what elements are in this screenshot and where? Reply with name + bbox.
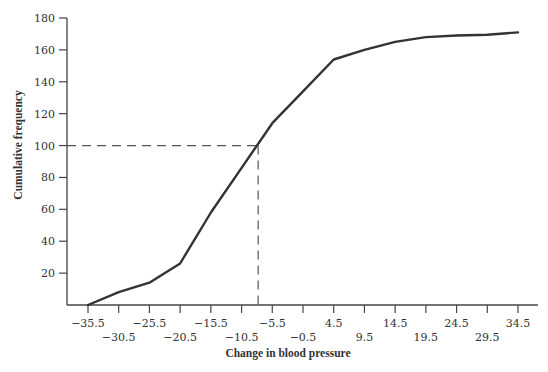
x-tick-label: −10.5 (225, 331, 259, 344)
reference-dashed-lines (67, 146, 258, 305)
x-axis: −35.5−30.5−25.5−20.5−15.5−10.5−5.5−0.54.… (67, 305, 538, 344)
x-tick-label: 9.5 (356, 331, 374, 344)
x-tick-label: 29.5 (475, 331, 500, 344)
x-tick-label: −15.5 (194, 317, 228, 330)
y-tick-label: 60 (41, 203, 55, 216)
y-tick-label: 20 (41, 267, 55, 280)
x-tick-label: −0.5 (290, 331, 317, 344)
y-tick-label: 100 (34, 140, 55, 153)
x-tick-label: −5.5 (259, 317, 286, 330)
y-tick-label: 40 (41, 235, 55, 248)
x-tick-label: −20.5 (163, 331, 197, 344)
y-tick-label: 180 (34, 12, 55, 25)
y-tick-label: 80 (41, 171, 55, 184)
y-axis: 20406080100120140160180 (34, 12, 67, 305)
x-tick-label: 14.5 (383, 317, 408, 330)
x-tick-label: 19.5 (414, 331, 439, 344)
x-axis-title: Change in blood pressure (225, 347, 350, 360)
y-tick-label: 140 (34, 76, 55, 89)
x-tick-label: 34.5 (506, 317, 531, 330)
x-tick-label: −25.5 (133, 317, 167, 330)
cumulative-frequency-curve (88, 32, 518, 305)
cumulative-frequency-chart: 20406080100120140160180 −35.5−30.5−25.5−… (0, 0, 548, 372)
x-tick-label: −30.5 (102, 331, 136, 344)
y-axis-title: Cumulative frequency (12, 90, 25, 200)
x-tick-label: 4.5 (325, 317, 343, 330)
y-tick-label: 120 (34, 108, 55, 121)
y-tick-label: 160 (34, 44, 55, 57)
x-tick-label: −35.5 (71, 317, 105, 330)
x-tick-label: 24.5 (444, 317, 469, 330)
